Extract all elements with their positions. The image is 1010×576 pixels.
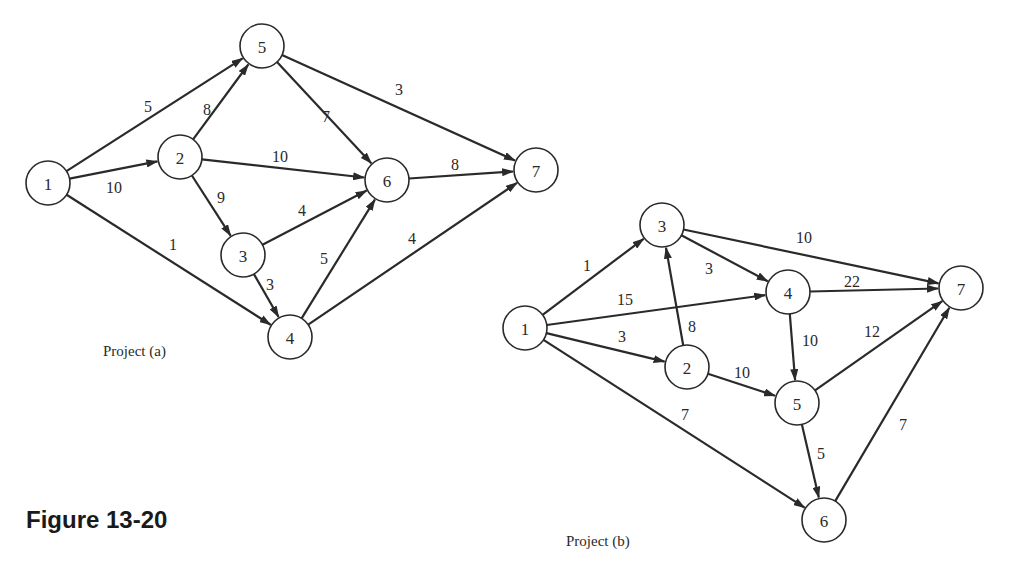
edge-duration-label: 3 [618, 328, 626, 345]
node-label: 2 [683, 359, 692, 378]
edge-duration-label: 3 [705, 260, 713, 277]
node-label: 4 [286, 329, 295, 348]
node-label: 6 [383, 172, 392, 191]
edge-duration-label: 10 [734, 364, 750, 381]
edge-5-to-6: 7 [277, 62, 371, 163]
edge-5-to-7: 3 [282, 55, 515, 160]
edge-duration-label: 5 [144, 98, 152, 115]
node-3: 3 [640, 203, 684, 247]
edge-1-to-2: 10 [70, 161, 158, 195]
edge-duration-label: 9 [217, 189, 225, 206]
network-diagram: 5101810973843541234567Project (a) 115378… [0, 0, 1010, 576]
node-label: 6 [820, 512, 829, 531]
arrow-icon [282, 55, 515, 160]
edge-2-to-6: 10 [202, 148, 364, 178]
node-label: 5 [793, 395, 802, 414]
edge-1-to-2: 3 [546, 328, 664, 362]
edge-2-to-5: 8 [193, 65, 248, 140]
edge-5-to-7: 12 [815, 301, 942, 390]
arrow-icon [815, 301, 942, 390]
edge-4-to-6: 5 [302, 200, 375, 319]
edge-duration-label: 7 [681, 406, 689, 423]
node-4: 4 [766, 270, 810, 314]
edge-duration-label: 10 [796, 229, 812, 246]
edge-duration-label: 10 [106, 179, 122, 196]
node-label: 3 [239, 247, 248, 266]
arrow-icon [666, 248, 683, 346]
node-6: 6 [802, 498, 846, 542]
node-2: 2 [158, 135, 202, 179]
arrow-icon [409, 172, 513, 179]
project-b-caption: Project (b) [566, 533, 630, 550]
edge-duration-label: 3 [266, 276, 274, 293]
edge-4-to-5: 10 [790, 314, 818, 380]
arrow-icon [192, 176, 231, 236]
edge-3-to-4: 3 [681, 235, 767, 281]
edge-duration-label: 5 [817, 445, 825, 462]
arrow-icon [681, 235, 767, 281]
node-label: 4 [784, 284, 793, 303]
node-7: 7 [939, 266, 983, 310]
node-label: 3 [658, 217, 667, 236]
node-1: 1 [26, 161, 70, 205]
figure-title: Figure 13-20 [26, 506, 167, 534]
edge-duration-label: 22 [844, 273, 860, 290]
edge-2-to-3: 9 [192, 176, 231, 236]
edge-duration-label: 8 [203, 101, 211, 118]
node-7: 7 [514, 148, 558, 192]
arrow-icon [810, 289, 938, 292]
edge-1-to-5: 5 [67, 58, 243, 171]
node-1: 1 [503, 306, 547, 350]
arrow-icon [67, 58, 243, 171]
edge-duration-label: 4 [298, 202, 306, 219]
edge-4-to-7: 22 [810, 273, 938, 292]
edge-duration-label: 15 [617, 291, 633, 308]
node-label: 2 [176, 149, 185, 168]
edge-duration-label: 8 [451, 156, 459, 173]
node-6: 6 [365, 158, 409, 202]
arrow-icon [546, 333, 664, 362]
edge-5-to-6: 5 [802, 424, 825, 497]
edge-duration-label: 8 [688, 318, 696, 335]
edge-2-to-5: 10 [708, 364, 775, 396]
project-a-caption: Project (a) [103, 343, 166, 360]
node-label: 7 [957, 280, 966, 299]
arrow-icon [790, 314, 795, 380]
project-a-network: 5101810973843541234567Project (a) [26, 24, 558, 360]
edge-duration-label: 10 [272, 148, 288, 165]
edge-duration-label: 7 [899, 416, 907, 433]
node-label: 5 [258, 38, 267, 57]
edge-duration-label: 10 [802, 332, 818, 349]
edge-duration-label: 7 [322, 108, 330, 125]
node-3: 3 [221, 233, 265, 277]
edge-1-to-4: 15 [547, 291, 765, 326]
edge-duration-label: 1 [169, 236, 177, 253]
edge-6-to-7: 8 [409, 156, 513, 179]
node-5: 5 [775, 381, 819, 425]
node-5: 5 [240, 24, 284, 68]
arrow-icon [302, 200, 375, 319]
edge-duration-label: 1 [583, 257, 591, 274]
arrow-icon [193, 65, 248, 140]
node-label: 1 [521, 320, 530, 339]
arrow-icon [70, 161, 158, 178]
node-4: 4 [268, 315, 312, 359]
edge-duration-label: 5 [320, 250, 328, 267]
edge-duration-label: 4 [408, 230, 416, 247]
edge-duration-label: 12 [864, 323, 880, 340]
edge-2-to-3: 8 [666, 248, 696, 346]
node-2: 2 [665, 345, 709, 389]
edge-3-to-4: 3 [254, 274, 279, 317]
node-label: 1 [44, 175, 53, 194]
edge-duration-label: 3 [395, 81, 403, 98]
project-b-network: 11537831022101012571234567Project (b) [503, 203, 983, 550]
arrow-icon [547, 295, 765, 325]
node-label: 7 [532, 162, 541, 181]
